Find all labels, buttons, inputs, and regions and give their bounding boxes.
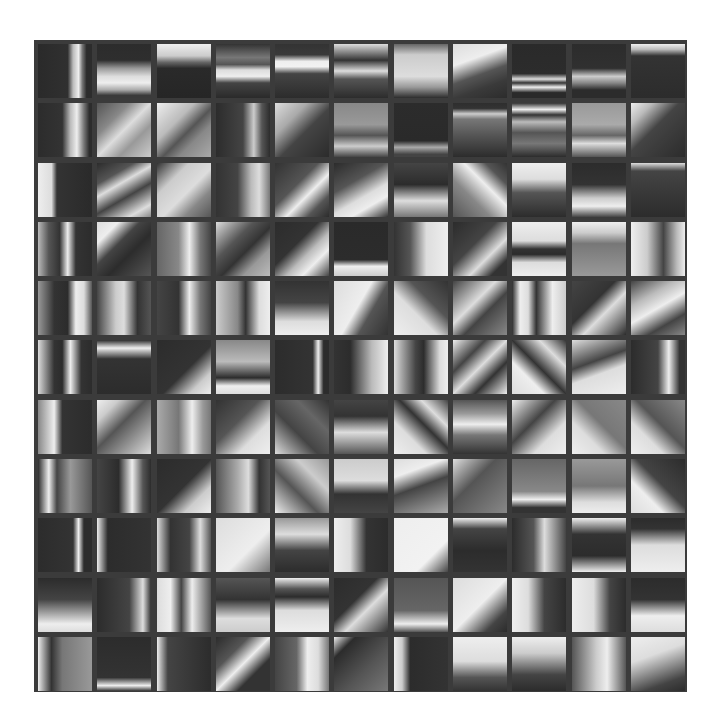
filter-tile-r8-c6 bbox=[394, 518, 448, 572]
filter-tile-r1-c2 bbox=[157, 103, 211, 157]
filter-tile-r7-c0 bbox=[38, 459, 92, 513]
filter-tile-r1-c7 bbox=[453, 103, 507, 157]
filter-tile-r7-c6 bbox=[394, 459, 448, 513]
filter-tile-r5-c8 bbox=[512, 340, 566, 394]
filter-tile-r3-c1 bbox=[97, 222, 151, 276]
filter-tile-r8-c7 bbox=[453, 518, 507, 572]
filter-tile-r0-c8 bbox=[512, 44, 566, 98]
filter-tile-r10-c3 bbox=[216, 637, 270, 691]
filter-tile-r8-c3 bbox=[216, 518, 270, 572]
filter-tile-r0-c0 bbox=[38, 44, 92, 98]
filter-tile-r1-c9 bbox=[572, 103, 626, 157]
filter-tile-r7-c4 bbox=[275, 459, 329, 513]
filter-tile-r10-c2 bbox=[157, 637, 211, 691]
filter-tile-r10-c7 bbox=[453, 637, 507, 691]
filter-tile-r7-c9 bbox=[572, 459, 626, 513]
filter-tile-r9-c4 bbox=[275, 578, 329, 632]
filter-tile-r7-c7 bbox=[453, 459, 507, 513]
filter-tile-r9-c9 bbox=[572, 578, 626, 632]
filter-grid bbox=[38, 44, 683, 691]
filter-tile-r10-c5 bbox=[334, 637, 388, 691]
filter-tile-r6-c0 bbox=[38, 400, 92, 454]
filter-tile-r5-c4 bbox=[275, 340, 329, 394]
filter-tile-r1-c10 bbox=[631, 103, 685, 157]
filter-tile-r10-c8 bbox=[512, 637, 566, 691]
filter-tile-r2-c8 bbox=[512, 163, 566, 217]
filter-tile-r8-c10 bbox=[631, 518, 685, 572]
filter-tile-r2-c6 bbox=[394, 163, 448, 217]
filter-tile-r4-c0 bbox=[38, 281, 92, 335]
filter-tile-r3-c4 bbox=[275, 222, 329, 276]
filter-tile-r4-c7 bbox=[453, 281, 507, 335]
filter-tile-r6-c5 bbox=[334, 400, 388, 454]
filter-tile-r1-c8 bbox=[512, 103, 566, 157]
filter-tile-r0-c3 bbox=[216, 44, 270, 98]
filter-tile-r4-c3 bbox=[216, 281, 270, 335]
filter-tile-r3-c5 bbox=[334, 222, 388, 276]
filter-tile-r8-c8 bbox=[512, 518, 566, 572]
filter-tile-r7-c8 bbox=[512, 459, 566, 513]
filter-tile-r2-c1 bbox=[97, 163, 151, 217]
filter-tile-r2-c7 bbox=[453, 163, 507, 217]
filter-tile-r9-c5 bbox=[334, 578, 388, 632]
filter-tile-r1-c3 bbox=[216, 103, 270, 157]
filter-tile-r1-c6 bbox=[394, 103, 448, 157]
filter-tile-r10-c6 bbox=[394, 637, 448, 691]
filter-tile-r4-c10 bbox=[631, 281, 685, 335]
filter-tile-r7-c5 bbox=[334, 459, 388, 513]
filter-tile-r5-c5 bbox=[334, 340, 388, 394]
filter-tile-r2-c5 bbox=[334, 163, 388, 217]
filter-tile-r2-c0 bbox=[38, 163, 92, 217]
filter-tile-r8-c5 bbox=[334, 518, 388, 572]
filter-tile-r3-c10 bbox=[631, 222, 685, 276]
filter-tile-r8-c4 bbox=[275, 518, 329, 572]
filter-tile-r10-c10 bbox=[631, 637, 685, 691]
filter-tile-r5-c9 bbox=[572, 340, 626, 394]
filter-tile-r6-c7 bbox=[453, 400, 507, 454]
filter-tile-r3-c8 bbox=[512, 222, 566, 276]
filter-tile-r8-c9 bbox=[572, 518, 626, 572]
filter-tile-r0-c2 bbox=[157, 44, 211, 98]
filter-tile-r0-c7 bbox=[453, 44, 507, 98]
filter-tile-r0-c6 bbox=[394, 44, 448, 98]
filter-tile-r9-c0 bbox=[38, 578, 92, 632]
filter-tile-r6-c3 bbox=[216, 400, 270, 454]
filter-tile-r1-c1 bbox=[97, 103, 151, 157]
filter-tile-r3-c9 bbox=[572, 222, 626, 276]
filter-tile-r6-c1 bbox=[97, 400, 151, 454]
filter-tile-r3-c7 bbox=[453, 222, 507, 276]
filter-tile-r2-c4 bbox=[275, 163, 329, 217]
filter-tile-r5-c3 bbox=[216, 340, 270, 394]
filter-tile-r6-c4 bbox=[275, 400, 329, 454]
filter-tile-r1-c5 bbox=[334, 103, 388, 157]
filter-tile-r9-c1 bbox=[97, 578, 151, 632]
filter-tile-r8-c0 bbox=[38, 518, 92, 572]
filter-tile-r7-c1 bbox=[97, 459, 151, 513]
filter-tile-r10-c1 bbox=[97, 637, 151, 691]
filter-tile-r4-c5 bbox=[334, 281, 388, 335]
filter-tile-r7-c10 bbox=[631, 459, 685, 513]
filter-tile-r5-c6 bbox=[394, 340, 448, 394]
filter-tile-r10-c0 bbox=[38, 637, 92, 691]
filter-tile-r5-c1 bbox=[97, 340, 151, 394]
filter-tile-r9-c3 bbox=[216, 578, 270, 632]
filter-tile-r2-c9 bbox=[572, 163, 626, 217]
filter-tile-r0-c1 bbox=[97, 44, 151, 98]
filter-tile-r8-c1 bbox=[97, 518, 151, 572]
filter-tile-r10-c9 bbox=[572, 637, 626, 691]
filter-tile-r6-c9 bbox=[572, 400, 626, 454]
filter-tile-r2-c10 bbox=[631, 163, 685, 217]
filter-tile-r6-c6 bbox=[394, 400, 448, 454]
filter-tile-r2-c2 bbox=[157, 163, 211, 217]
filter-tile-r3-c3 bbox=[216, 222, 270, 276]
filter-tile-r9-c2 bbox=[157, 578, 211, 632]
filter-tile-r2-c3 bbox=[216, 163, 270, 217]
filter-tile-r5-c10 bbox=[631, 340, 685, 394]
filter-tile-r5-c2 bbox=[157, 340, 211, 394]
filter-tile-r7-c3 bbox=[216, 459, 270, 513]
filter-tile-r7-c2 bbox=[157, 459, 211, 513]
filter-tile-r3-c0 bbox=[38, 222, 92, 276]
filter-tile-r0-c4 bbox=[275, 44, 329, 98]
filter-tile-r9-c6 bbox=[394, 578, 448, 632]
filter-tile-r4-c1 bbox=[97, 281, 151, 335]
